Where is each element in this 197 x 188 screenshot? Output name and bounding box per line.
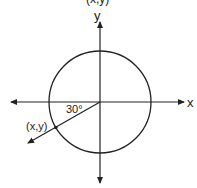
top-cut-label: (x,y) <box>86 0 109 6</box>
y-axis-label: y <box>94 8 101 23</box>
point-label: (x,y) <box>26 120 47 132</box>
x-axis-label: x <box>187 95 194 110</box>
angle-label: 30° <box>66 103 83 115</box>
point-marker <box>54 126 58 130</box>
unit-circle-diagram: (x,y) y x 30° (x,y) <box>0 0 197 188</box>
diagram-svg: (x,y) y x 30° (x,y) <box>0 0 197 188</box>
